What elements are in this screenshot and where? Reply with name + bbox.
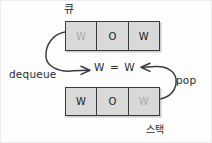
queue-structure: W O W bbox=[65, 21, 160, 51]
diagram-canvas: 큐 W O W dequeue W = W pop W O W 스택 bbox=[0, 0, 212, 143]
stack-title: 스택 bbox=[146, 125, 164, 135]
stack-cell-1: O bbox=[97, 88, 128, 115]
queue-cell-2: W bbox=[129, 22, 159, 50]
stack-structure: W O W bbox=[65, 87, 160, 116]
dequeue-label: dequeue bbox=[9, 69, 56, 80]
queue-title: 큐 bbox=[64, 4, 74, 15]
comparison-text: W = W bbox=[94, 62, 136, 73]
queue-cell-0: W bbox=[66, 22, 97, 50]
queue-cell-1: O bbox=[97, 22, 128, 50]
stack-cell-2: W bbox=[129, 88, 159, 115]
pop-label: pop bbox=[176, 75, 196, 86]
stack-cell-0: W bbox=[66, 88, 97, 115]
